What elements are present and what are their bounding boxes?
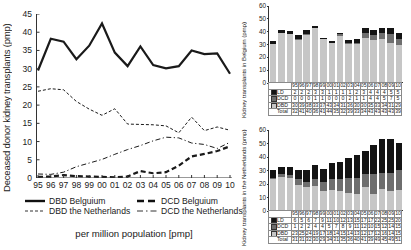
main-plot-svg [36,14,232,178]
bar-segment-ld [396,143,403,170]
table-cell: 15 [395,224,402,231]
bar-cell [311,6,319,82]
table-row-label-tot: Total [269,109,292,116]
stacked-bar [287,167,294,210]
table-cell: 40 [305,109,312,116]
table-cell: 17 [319,230,326,237]
stacked-bar [354,39,361,82]
table-cell: 43 [381,109,388,116]
bar-cell [303,6,311,82]
bar-cell [294,6,302,82]
bar-segment-dbd [303,35,310,82]
table-cell: 4 [381,89,388,96]
legend-swatch-dbd-netherlands [24,206,46,216]
table-cell: 23 [292,230,299,237]
table-year-header: 02 [340,211,347,218]
table-cell: 2 [298,89,305,96]
stacked-bar [312,26,319,82]
table-cell: 2 [347,96,354,103]
table-cell: 5 [326,224,333,231]
bar-segment-dbd [387,191,394,210]
bar-segment-ld [287,167,294,175]
bar-cell [336,6,344,82]
table-cell: 20 [395,217,402,224]
bar-cell [286,130,294,210]
stacked-bar [337,162,344,210]
table-cell: 34 [360,109,367,116]
table-cell: 29 [395,102,402,109]
table-cell: 14 [333,230,340,237]
bar-segment-dbd [270,179,277,210]
table-cell: 41 [298,109,305,116]
table-cell: 32 [305,237,312,244]
table-cell: 1 [312,96,319,103]
table-cell: 30 [353,102,360,109]
table-cell: 38 [305,102,312,109]
bar-segment-dbd [387,43,394,82]
table-cell: 35 [333,109,340,116]
table-row: Total31313230293431353640413949454951 [269,237,402,244]
table-cell: 0 [333,96,340,103]
table-year-header: 01 [333,211,340,218]
table-cell: 5 [395,96,402,103]
table-year-header: 02 [340,83,347,90]
table-cell: 5 [388,89,395,96]
bar-cell [361,130,369,210]
table-cell: 14 [388,230,395,237]
table-cell: 13 [353,230,360,237]
bar-cell [328,6,336,82]
main-line-chart: Deceased donor kidney transplants (pmp) … [0,0,240,250]
bar-segment-dbd [337,191,344,210]
legend-marker-ld-icon [271,89,277,95]
bar-segment-dbd [287,178,294,210]
bar-y-tick-label: 0 [250,79,266,86]
table-row: DCD12244578911121015121415 [269,224,402,231]
table-year-header: 09 [388,83,395,90]
table-cell: 22 [374,217,381,224]
bar-segment-dbd [370,40,377,82]
stacked-bar [362,158,369,210]
legend-marker-dcd-icon [271,96,277,102]
bar-segment-dcd [354,178,361,194]
table-cell: 31 [340,102,347,109]
table-row-label-tot: Total [269,237,292,244]
table-cell: 31 [292,237,299,244]
bar-segment-dcd [396,170,403,190]
bar-cell [269,6,277,82]
legend-marker-dbd-icon [271,231,277,237]
table-year-header: 05 [360,211,367,218]
stacked-bar [329,163,336,210]
bar-y-tick-label: 30 [250,41,266,48]
table-cell: 33 [312,102,319,109]
stacked-bar [345,40,352,82]
bar-segment-ld [387,139,394,172]
bar-cell [277,130,285,210]
bar-y-tick-label: 40 [250,153,266,160]
table-cell: 6 [305,217,312,224]
main-y-tick-label: 0 [10,173,32,183]
table-cell: 15 [340,230,347,237]
bar-cell [353,6,361,82]
table-year-header: 01 [333,83,340,90]
bar-segment-dcd [370,174,377,194]
bar-segment-ld [320,169,327,182]
table-year-header: 08 [381,211,388,218]
table-cell: 43 [367,109,374,116]
bar-segment-dbd [362,38,369,82]
bar-segment-dbd [295,185,302,210]
belgium-plot-area [268,6,403,83]
table-cell: 35 [340,237,347,244]
table-cell: 3 [360,89,367,96]
bar-segment-dbd [354,44,361,82]
table-cell: 5 [395,89,402,96]
bar-cell [395,6,403,82]
belgium-y-axis-label: Kidney transplants in Belgium (pmp) [240,2,247,118]
table-year-header: 06 [367,211,374,218]
table-cell: 0 [298,96,305,103]
bar-segment-dcd [312,179,319,186]
legend-label-dbd-netherlands: DBD the Netherlands [49,206,130,216]
bar-segment-dbd [329,190,336,210]
table-cell: 39 [298,102,305,109]
table-cell: 34 [333,102,340,109]
table-year-header: 03 [347,211,354,218]
